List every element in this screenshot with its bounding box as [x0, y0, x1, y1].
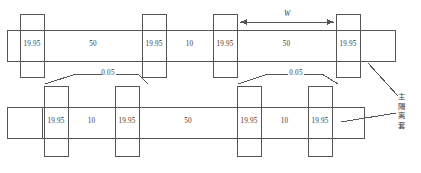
isolation-sleeve-callout-label: 主隔离套 [397, 92, 406, 130]
tolerance-label-left: 0.05 [94, 70, 122, 77]
upper-segment-label-1: 19.95 [20, 41, 44, 48]
upper-segment-label-7: 19.95 [336, 41, 360, 48]
lower-segment-label-2: 10 [68, 118, 115, 125]
lower-left-stub [7, 107, 42, 138]
tolerance-label-right: 0.05 [282, 70, 310, 77]
width-arrow-left-icon [240, 19, 247, 25]
lower-right-stub [332, 107, 364, 138]
width-arrow-right-icon [327, 19, 334, 25]
lower-segment-label-5: 19.95 [237, 118, 261, 125]
tolerance-left-leader-b [138, 74, 148, 84]
callout-leader-lower [341, 113, 396, 122]
engineering-drawing-canvas: 19.95 50 19.95 10 19.95 50 19.95 19.95 1… [0, 0, 421, 173]
callout-leader-upper [368, 63, 398, 96]
upper-segment-label-3: 19.95 [142, 41, 166, 48]
upper-segment-label-2: 50 [44, 41, 142, 48]
lower-segment-label-1: 19.95 [44, 118, 68, 125]
upper-left-stub [7, 30, 20, 61]
width-dimension-label: W [284, 9, 290, 18]
upper-segment-label-6: 50 [237, 41, 336, 48]
upper-right-stub [360, 30, 395, 61]
tolerance-right-leader-a [238, 74, 268, 84]
drawing-vector-layer [0, 0, 421, 173]
lower-segment-label-7: 19.95 [308, 118, 332, 125]
lower-segment-label-3: 19.95 [115, 118, 139, 125]
upper-segment-label-5: 19.95 [213, 41, 237, 48]
tolerance-left-leader-a [45, 74, 76, 84]
upper-segment-label-4: 10 [166, 41, 213, 48]
lower-segment-label-4: 50 [139, 118, 237, 125]
lower-segment-label-6: 10 [261, 118, 308, 125]
